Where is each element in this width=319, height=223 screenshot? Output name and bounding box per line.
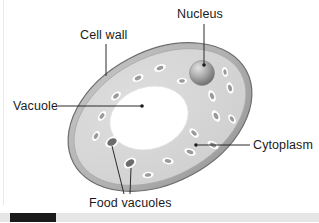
dot-cytoplasm	[194, 143, 198, 147]
label-cell-wall: Cell wall	[80, 29, 127, 42]
cell-diagram-figure: Cell wall Nucleus Vacuole Cytoplasm Food…	[0, 0, 319, 223]
label-cytoplasm: Cytoplasm	[253, 139, 313, 152]
label-nucleus: Nucleus	[177, 8, 223, 21]
dot-nucleus	[202, 63, 206, 67]
nucleus-sphere	[190, 61, 215, 86]
dot-vacuole	[140, 104, 144, 108]
label-food-vacuoles: Food vacuoles	[89, 197, 172, 210]
scrollbar-thumb[interactable]	[10, 213, 56, 222]
horizontal-scrollbar[interactable]	[0, 211, 319, 223]
label-vacuole: Vacuole	[13, 100, 58, 113]
